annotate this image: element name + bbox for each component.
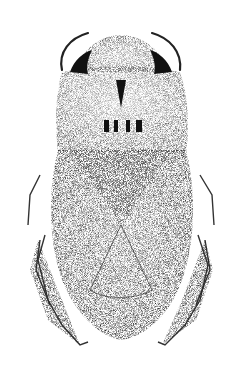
pronotum	[56, 66, 188, 152]
insect-illustration	[0, 0, 243, 387]
illustration-canvas	[0, 0, 243, 387]
